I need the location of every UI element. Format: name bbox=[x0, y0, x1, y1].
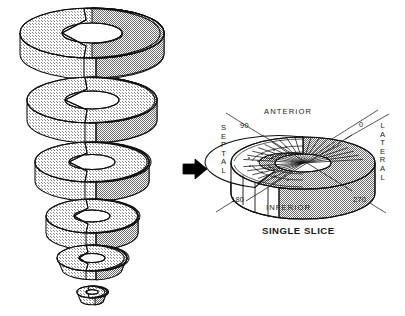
angle-label-180: 180 bbox=[231, 196, 244, 203]
wall-label-lateral: L A T E R A L bbox=[378, 122, 387, 182]
wall-label-anterior: ANTERIOR bbox=[264, 108, 312, 116]
angle-label-270: 270 bbox=[353, 196, 366, 203]
angle-label-90: 90 bbox=[240, 122, 249, 129]
figure-caption: SINGLE SLICE bbox=[262, 226, 335, 236]
cardiac-slice-figure: ANTERIOR INFERIOR S E P T A L L A T E R … bbox=[0, 0, 405, 316]
angle-label-0: 0 bbox=[359, 121, 363, 128]
wall-label-inferior: INFERIOR bbox=[266, 204, 311, 212]
wall-label-septal: S E P T A L bbox=[219, 124, 228, 176]
single-slice-diagram bbox=[0, 0, 405, 316]
